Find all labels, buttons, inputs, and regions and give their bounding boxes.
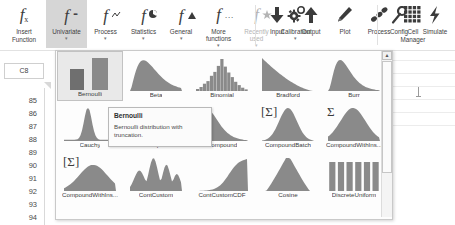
distribution-gallery: BernoulliBetaBinomialBradfordBurrCauchyC… <box>55 50 393 220</box>
row-header-cell[interactable]: 85 <box>0 94 44 107</box>
ribbon-button-more-functions[interactable]: f…More functions▾ <box>199 0 238 48</box>
gallery-item-label: ContCustom <box>139 191 173 199</box>
gallery-item-compoundbatch[interactable]: [Σ]CompoundBatch <box>255 101 321 151</box>
distribution-thumbnail-discreteuniform <box>326 155 382 191</box>
row-header-cell[interactable]: 91 <box>0 172 44 185</box>
gallery-scrollbar[interactable]: ▲ <box>381 51 392 217</box>
gallery-item-burr[interactable]: Burr <box>321 51 387 101</box>
sigma-badge-icon: Σ <box>327 105 335 119</box>
ribbon-separator-0 <box>255 5 256 45</box>
ribbon-button-process[interactable]: fProcess▾ <box>87 0 124 48</box>
gallery-item-cosine[interactable]: Cosine <box>255 151 321 201</box>
grid-line <box>391 125 455 126</box>
gallery-item-binomial[interactable]: Binomial <box>189 51 255 101</box>
name-box[interactable]: C8 <box>4 63 44 79</box>
ribbon-toolbar: fxInsert Functionf▪▪▪Univariate▾fProcess… <box>0 0 455 51</box>
ribbon-button-general[interactable]: fGeneral▾ <box>163 0 199 48</box>
fx-icon: fx <box>20 3 29 27</box>
gallery-row: [Σ]CompoundWithIns...ContCustomContCusto… <box>56 151 392 201</box>
distribution-thumbnail-bradford <box>260 55 316 91</box>
arrow-down-icon <box>270 3 284 27</box>
distribution-thumbnail-binomial <box>194 55 250 91</box>
ribbon-group-run-group: ConfigSimulate <box>382 0 454 50</box>
row-header-cell[interactable]: 92 <box>0 185 44 198</box>
chevron-down-icon[interactable]: ▾ <box>217 43 220 48</box>
row-header-divider <box>44 88 45 225</box>
gallery-rows: BernoulliBetaBinomialBradfordBurrCauchyC… <box>56 51 392 201</box>
gallery-item-compoundwithins[interactable]: ΣCompoundWithIns... <box>321 101 387 151</box>
ribbon-button-simulate[interactable]: Simulate <box>416 0 454 48</box>
row-header-cell[interactable]: 87 <box>0 120 44 133</box>
chevron-down-icon[interactable]: ▾ <box>142 36 145 41</box>
ribbon-button-plot[interactable]: Plot <box>328 0 362 48</box>
gallery-item-compoundwithins2[interactable]: [Σ]CompoundWithIns... <box>57 151 123 201</box>
ribbon-button-statistics[interactable]: fStatistics▾ <box>124 0 163 48</box>
distribution-thumbnail-compoundbatch: [Σ] <box>260 105 316 141</box>
f-more-icon: f… <box>216 3 221 27</box>
gallery-item-label: Cosine <box>278 191 297 199</box>
distribution-thumbnail-contcustomcdf <box>194 155 250 191</box>
gallery-row: BernoulliBetaBinomialBradfordBurr <box>56 51 392 101</box>
gallery-item-beta[interactable]: Beta <box>123 51 189 101</box>
scrollbar-thumb[interactable] <box>382 61 392 173</box>
grid-line <box>391 112 455 113</box>
gallery-item-bernoulli[interactable]: Bernoulli <box>57 51 123 101</box>
gallery-item-contcustom[interactable]: ContCustom <box>123 151 189 201</box>
f-univariate-icon: f▪▪▪ <box>64 3 69 27</box>
distribution-thumbnail-beta <box>128 55 184 91</box>
ribbon-button-label: Config <box>390 28 408 36</box>
ribbon-separator-1 <box>377 5 378 45</box>
scroll-up-button[interactable]: ▲ <box>382 51 392 60</box>
ribbon-button-univariate[interactable]: f▪▪▪Univariate▾ <box>46 0 87 48</box>
grid-line <box>391 73 455 74</box>
ribbon-button-label: Input <box>270 28 284 36</box>
distribution-thumbnail-compoundwithins2: [Σ] <box>62 155 118 191</box>
ribbon-button-input[interactable]: Input <box>260 0 294 48</box>
f-statistics-icon: f <box>141 3 146 27</box>
gallery-item-label: Burr <box>348 91 360 99</box>
f-process-icon: f <box>103 3 108 27</box>
row-header-cell[interactable]: 86 <box>0 107 44 120</box>
ribbon-button-output[interactable]: Output <box>294 0 328 48</box>
row-header-cell[interactable]: 94 <box>0 211 44 224</box>
gallery-item-label: CompoundWithIns... <box>62 191 118 199</box>
row-header-cell[interactable]: 93 <box>0 198 44 211</box>
tooltip-title: Bernoulli <box>114 112 206 119</box>
ribbon-button-insert-function[interactable]: fxInsert Function <box>2 0 46 48</box>
lightning-icon <box>428 3 442 27</box>
ribbon-button-label: Insert Function <box>12 28 36 43</box>
ribbon-button-label: Output <box>302 28 321 36</box>
gallery-item-bradford[interactable]: Bradford <box>255 51 321 101</box>
pencil-icon <box>336 3 354 27</box>
gallery-item-label: DiscreteUniform <box>332 191 376 199</box>
gallery-item-label: Bernoulli <box>78 90 102 98</box>
distribution-thumbnail-cosine <box>260 155 316 191</box>
ribbon-button-label: Plot <box>340 28 351 36</box>
row-header-cell[interactable]: 90 <box>0 159 44 172</box>
chevron-down-icon[interactable]: ▾ <box>65 36 68 41</box>
gallery-row: CauchyChiSquareCompound[Σ]CompoundBatchΣ… <box>56 101 392 151</box>
chevron-down-icon[interactable]: ▾ <box>104 36 107 41</box>
distribution-thumbnail-contcustom <box>128 155 184 191</box>
ribbon-button-config[interactable]: Config <box>382 0 416 48</box>
sigma-badge-icon: [Σ] <box>261 105 277 119</box>
row-header-cell[interactable]: 89 <box>0 146 44 159</box>
row-header-cell[interactable]: 88 <box>0 133 44 146</box>
gallery-item-label: Binomial <box>210 91 234 99</box>
gallery-item-label: CompoundWithIns... <box>326 141 382 149</box>
gallery-item-label: Beta <box>150 91 163 99</box>
text-cursor-icon <box>418 86 419 97</box>
grid-line <box>391 60 455 61</box>
distribution-thumbnail-bernoulli <box>62 54 118 90</box>
gallery-item-discreteuniform[interactable]: DiscreteUniform <box>321 151 387 201</box>
gallery-item-label: ContCustomCDF <box>198 191 245 199</box>
select-all-corner[interactable] <box>44 82 51 89</box>
gallery-item-label: Cauchy <box>80 141 101 149</box>
gallery-item-label: CompoundBatch <box>265 141 311 149</box>
wrench-icon <box>390 3 408 27</box>
distribution-thumbnail-burr <box>326 55 382 91</box>
tooltip: Bernoulli Bernoulli distribution with tr… <box>108 107 212 147</box>
gallery-item-contcustomcdf[interactable]: ContCustomCDF <box>189 151 255 201</box>
row-header-column: 85868788899091929394 <box>0 94 44 224</box>
chevron-down-icon[interactable]: ▾ <box>180 36 183 41</box>
